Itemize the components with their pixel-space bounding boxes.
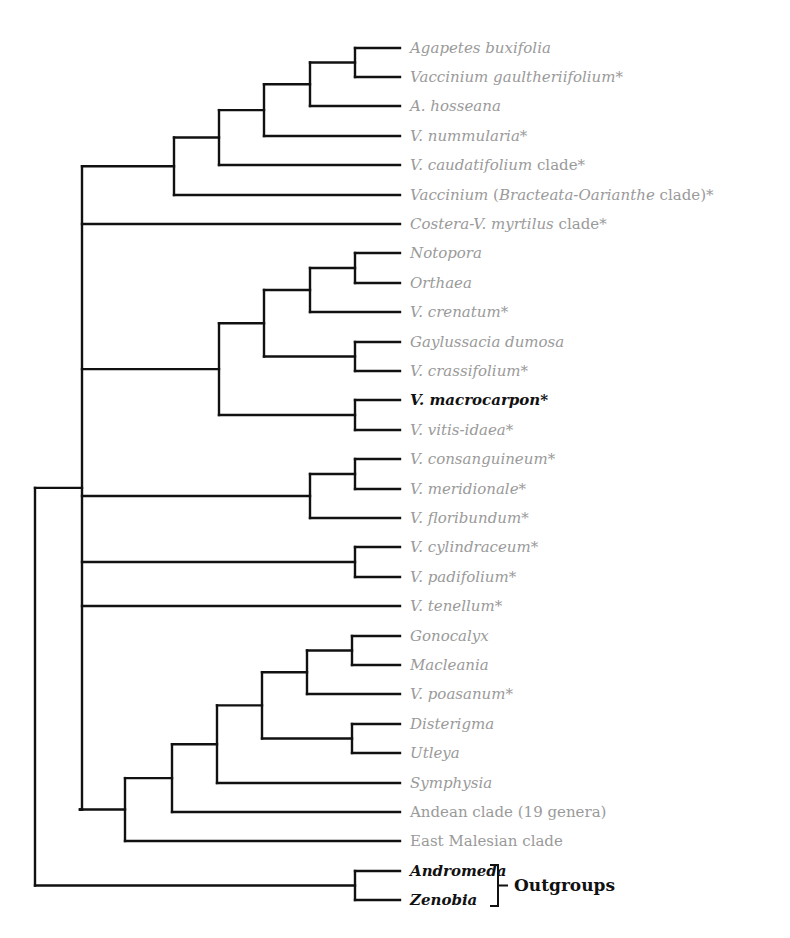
leaf-label: V. nummularia* <box>410 127 527 145</box>
leaf-label: V. vitis-idaea* <box>410 421 513 439</box>
leaf-label: Notopora <box>410 244 482 262</box>
leaf-label: V. cylindraceum* <box>410 538 538 556</box>
leaf-label: Macleania <box>410 656 489 674</box>
leaf-label: V. crenatum* <box>410 303 508 321</box>
leaf-label: Andromeda <box>410 862 507 880</box>
leaf-label: V. caudatifolium clade* <box>410 156 585 174</box>
leaf-label: V. consanguineum* <box>410 450 555 468</box>
leaf-label: A. hosseana <box>410 97 501 115</box>
leaf-label: V. floribundum* <box>410 509 529 527</box>
leaf-label: V. poasanum* <box>410 685 513 703</box>
outgroups-label: Outgroups <box>514 875 615 895</box>
leaf-label: V. crassifolium* <box>410 362 528 380</box>
leaf-label: Andean clade (19 genera) <box>410 803 606 821</box>
leaf-label: Zenobia <box>410 891 477 909</box>
leaf-label: East Malesian clade <box>410 832 563 850</box>
leaf-label: Orthaea <box>410 274 472 292</box>
phylogenetic-tree <box>0 0 790 938</box>
leaf-label: Vaccinium (Bracteata-Oarianthe clade)* <box>410 186 714 204</box>
leaf-label: V. macrocarpon* <box>410 391 548 409</box>
leaf-label: Symphysia <box>410 774 492 792</box>
leaf-label: Costera-V. myrtilus clade* <box>410 215 607 233</box>
leaf-label: V. tenellum* <box>410 597 502 615</box>
leaf-label: Utleya <box>410 744 460 762</box>
leaf-label: Agapetes buxifolia <box>410 39 551 57</box>
leaf-label: Vaccinium gaultheriifolium* <box>410 68 623 86</box>
leaf-label: Gaylussacia dumosa <box>410 333 564 351</box>
leaf-label: Disterigma <box>410 715 494 733</box>
leaf-label: V. meridionale* <box>410 480 526 498</box>
leaf-label: V. padifolium* <box>410 568 516 586</box>
leaf-label: Gonocalyx <box>410 627 489 645</box>
